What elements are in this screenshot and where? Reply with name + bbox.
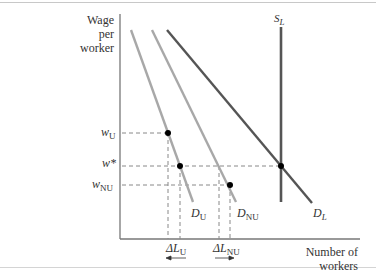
label-supply: SL	[274, 12, 285, 29]
label-demand-union: DU	[191, 207, 206, 224]
point-market-equilibrium	[278, 163, 284, 169]
label-w-nonunion: wNU	[92, 178, 113, 195]
demand-curve-nonunion	[152, 30, 236, 202]
demand-curve-union	[131, 30, 193, 202]
point-union-equilibrium	[177, 163, 183, 169]
label-demand-nonunion: DNU	[237, 207, 259, 224]
labor-market-diagram: Wage per worker Number of workers wU w* …	[0, 0, 376, 280]
label-delta-l-nonunion: ΔLNU	[213, 242, 240, 259]
demand-curve-total	[167, 30, 312, 203]
point-nonunion-wage	[227, 182, 233, 188]
y-axis-label: Wage per worker	[80, 13, 114, 55]
y-axis-label-line: Wage	[80, 13, 114, 27]
label-w-union: wU	[101, 126, 116, 143]
x-axis-label: Number of workers	[306, 245, 358, 273]
label-delta-l-union: ΔLU	[166, 242, 186, 259]
label-demand-total: DL	[313, 207, 327, 224]
diagram-canvas	[0, 0, 376, 280]
x-axis-label-line: Number of	[306, 245, 358, 259]
y-axis-label-line: worker	[80, 41, 114, 55]
label-w-star: w*	[102, 157, 116, 170]
point-union-wage	[165, 130, 171, 136]
x-axis-label-line: workers	[306, 259, 358, 273]
y-axis-label-line: per	[80, 27, 114, 41]
